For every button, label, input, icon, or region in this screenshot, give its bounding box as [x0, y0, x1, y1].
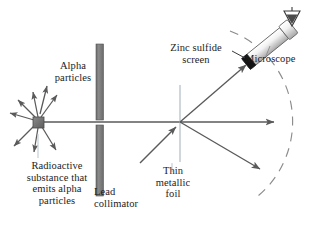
label-microscope: Microscope [245, 53, 313, 65]
alpha-arrow-down [34, 128, 38, 152]
alpha-arrow-downright [42, 127, 56, 150]
label-thin-metallic-foil: Thin metallic foil [142, 165, 204, 200]
alpha-arrow-downleft [14, 126, 34, 146]
incoming-deflected-ray [140, 127, 176, 163]
scattered-ray-down [180, 122, 260, 169]
rutherford-scattering-diagram: Alpha particles Radioactive substance th… [0, 0, 316, 235]
label-alpha-particles: Alpha particles [38, 60, 108, 83]
label-zinc-sulfide-screen: Zinc sulfide screen [160, 42, 232, 65]
zns-label-leader [232, 51, 245, 58]
alpha-arrow-up [33, 92, 38, 117]
alpha-arrow-left [10, 113, 34, 120]
scattered-ray-up [180, 65, 246, 122]
radioactive-source [33, 117, 44, 128]
alpha-arrow-upleft [18, 100, 36, 118]
scattered-rays [140, 65, 274, 169]
